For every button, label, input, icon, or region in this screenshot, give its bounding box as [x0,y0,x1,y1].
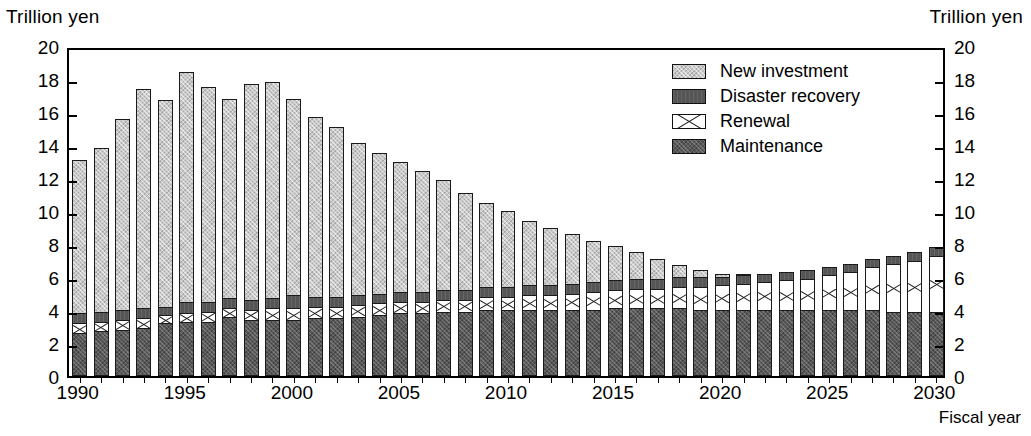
bar-segment-disaster_recovery-2019 [693,277,708,287]
bar-segment-disaster_recovery-2006 [415,292,430,302]
bar-segment-renewal-2012 [543,295,558,310]
bar-2019[interactable] [693,262,708,376]
bar-segment-maintenance-2006 [415,313,430,376]
bar-2017[interactable] [650,251,665,376]
renewal-cross-hatch-icon [844,273,857,310]
legend-swatch-disaster_recovery-icon [672,89,706,104]
bar-2018[interactable] [672,257,687,376]
bar-segment-renewal-2016 [629,289,644,309]
y-tick-mark-12 [69,181,77,183]
bar-1991[interactable] [94,148,109,376]
x-tick-label-2030: 2030 [913,382,955,404]
bar-1995[interactable] [179,72,194,376]
y-tick-label-right-18: 18 [954,70,988,92]
bar-segment-renewal-2003 [351,305,366,317]
bar-2004[interactable] [372,148,387,376]
bar-segment-renewal-2026 [843,272,858,310]
legend-item-new_investment[interactable]: New investment [672,60,934,82]
bar-segment-new_investment-1994 [158,100,173,306]
bar-2006[interactable] [415,171,430,376]
y-tick-label-right-8: 8 [954,235,988,257]
bar-2024[interactable] [800,264,815,376]
bar-2009[interactable] [479,198,494,376]
bar-2011[interactable] [522,213,537,376]
bar-2013[interactable] [565,226,580,376]
bar-1998[interactable] [244,84,259,376]
bar-segment-renewal-2015 [608,290,623,308]
bar-2001[interactable] [308,117,323,376]
bar-2003[interactable] [351,143,366,376]
bar-2005[interactable] [393,162,408,377]
legend-item-maintenance[interactable]: Maintenance [672,135,934,157]
y-tick-mark-2 [69,346,77,348]
bar-segment-renewal-2029 [907,261,922,312]
bar-1996[interactable] [201,87,216,376]
bar-1994[interactable] [158,100,173,376]
bar-2010[interactable] [501,204,516,376]
bar-segment-new_investment-2002 [329,127,344,297]
bar-1999[interactable] [265,82,280,376]
y-tick-label-right-16: 16 [954,103,988,125]
bar-2020[interactable] [715,267,730,376]
bar-segment-maintenance-2029 [907,312,922,376]
bar-segment-disaster_recovery-2010 [501,287,516,297]
bar-1993[interactable] [136,89,151,376]
bar-2000[interactable] [286,99,301,376]
bar-segment-maintenance-2021 [736,310,751,376]
bar-segment-disaster_recovery-2000 [286,295,301,308]
bar-2025[interactable] [822,262,837,376]
bar-segment-renewal-2017 [650,289,665,309]
bar-segment-disaster_recovery-2021 [736,275,751,283]
bar-segment-new_investment-2020 [715,274,730,277]
legend-item-disaster_recovery[interactable]: Disaster recovery [672,85,934,107]
bar-2014[interactable] [586,232,601,376]
y-tick-mark-4 [935,313,943,315]
bar-segment-renewal-2024 [800,279,815,310]
bar-2030[interactable] [929,247,944,376]
bar-2023[interactable] [779,267,794,376]
bar-segment-disaster_recovery-2002 [329,297,344,307]
bar-1997[interactable] [222,99,237,376]
bar-segment-renewal-1990 [72,323,87,333]
bar-segment-maintenance-1999 [265,320,280,376]
renewal-cross-hatch-icon [930,257,943,312]
renewal-cross-hatch-icon [459,301,472,312]
bar-segment-new_investment-2017 [650,259,665,279]
y-axis-left: 02468101214161820 [25,48,59,378]
y-tick-label-right-4: 4 [954,301,988,323]
renewal-cross-hatch-icon [737,285,750,310]
bar-2012[interactable] [543,219,558,376]
bar-2029[interactable] [907,251,922,376]
bar-segment-disaster_recovery-2016 [629,279,644,289]
bar-segment-renewal-2008 [458,300,473,312]
bar-2016[interactable] [629,246,644,376]
bar-segment-maintenance-2001 [308,318,323,376]
renewal-cross-hatch-icon [823,276,836,310]
bar-segment-disaster_recovery-2003 [351,295,366,305]
bar-1990[interactable] [72,160,87,376]
y-tick-mark-18 [69,82,77,84]
bar-segment-renewal-1991 [94,322,109,332]
bar-segment-disaster_recovery-2026 [843,264,858,272]
bar-2021[interactable] [736,270,751,376]
bar-segment-new_investment-2001 [308,117,323,297]
legend-item-renewal[interactable]: Renewal [672,110,934,132]
bar-2028[interactable] [886,252,901,376]
bar-2026[interactable] [843,259,858,376]
bar-2015[interactable] [608,239,623,376]
bar-segment-new_investment-2021 [736,274,751,276]
renewal-cross-hatch-icon [309,308,322,319]
bar-segment-maintenance-2002 [329,318,344,376]
bar-1992[interactable] [115,119,130,376]
bar-segment-new_investment-1997 [222,99,237,299]
y-tick-mark-10 [69,214,77,216]
y-tick-label-left-16: 16 [25,103,59,125]
bar-segment-renewal-2025 [822,275,837,310]
bar-2002[interactable] [329,127,344,376]
bar-segment-new_investment-1992 [115,119,130,310]
bar-2022[interactable] [757,269,772,376]
bar-2007[interactable] [436,180,451,376]
bar-segment-renewal-2007 [436,300,451,312]
bar-2008[interactable] [458,191,473,376]
bar-2027[interactable] [865,256,880,376]
